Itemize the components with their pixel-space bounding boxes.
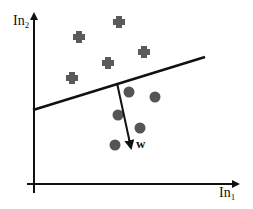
perceptron-diagram <box>0 0 253 209</box>
cross-marker <box>138 46 150 58</box>
class-a-crosses <box>66 16 150 84</box>
class-b-circles <box>110 87 161 151</box>
circle-marker <box>150 92 161 103</box>
cross-marker <box>66 72 78 84</box>
x-axis-label-subscript: 1 <box>231 192 236 202</box>
decision-boundary-line <box>33 57 205 110</box>
y-axis-label-base: In <box>13 13 25 28</box>
y-axis-label-subscript: 2 <box>25 20 30 30</box>
cross-marker <box>102 57 114 69</box>
circle-marker <box>124 87 135 98</box>
y-axis-label: In2 <box>13 14 29 30</box>
x-axis-label: In1 <box>219 186 235 202</box>
circle-marker <box>113 110 124 121</box>
weight-vector-label: w <box>136 136 145 152</box>
x-axis-label-base: In <box>219 185 231 200</box>
circle-marker <box>110 140 121 151</box>
cross-marker <box>73 31 85 43</box>
cross-marker <box>113 16 125 28</box>
circle-marker <box>135 123 146 134</box>
